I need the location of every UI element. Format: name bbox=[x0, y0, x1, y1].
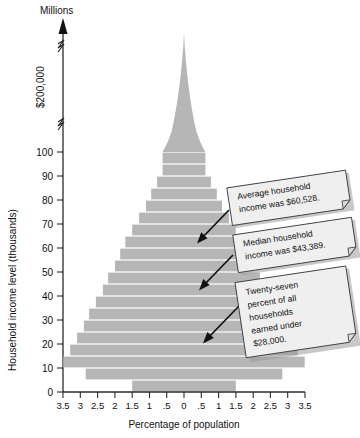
y-tick-label: 20 bbox=[42, 339, 54, 350]
bar-5-10 bbox=[86, 369, 283, 380]
y-axis-title: Household income level (thousands) bbox=[7, 209, 18, 371]
y-tick-label: 80 bbox=[42, 195, 54, 206]
y-tick: 90 bbox=[42, 171, 63, 182]
x-axis-title: Percentage of population bbox=[128, 419, 239, 430]
population-pyramid-chart: Millions $200,000 Household income level… bbox=[0, 0, 360, 438]
chart-figure: Millions $200,000 Household income level… bbox=[0, 0, 360, 438]
callout-under-28000[interactable]: Twenty-seven percent of all households e… bbox=[235, 266, 360, 363]
y-tick-label: 60 bbox=[42, 243, 54, 254]
y-tick: 70 bbox=[42, 219, 63, 230]
y-tick: 10 bbox=[42, 363, 63, 374]
y-tick-label: 30 bbox=[42, 315, 54, 326]
y-tick: 60 bbox=[42, 243, 63, 254]
y-tick: 80 bbox=[42, 195, 63, 206]
x-tick-label: 3.5 bbox=[56, 400, 69, 411]
bar-60-65 bbox=[125, 237, 242, 248]
x-axis: 3.5 3 2.5 2 1.5 1 .5 0 .5 1 1.5 2 2.5 3 … bbox=[56, 392, 311, 430]
x-tick-label: 3 bbox=[78, 400, 83, 411]
x-tick-label: 2.5 bbox=[264, 400, 277, 411]
bar-75-80 bbox=[146, 201, 222, 212]
x-tick-label: .5 bbox=[163, 400, 171, 411]
y-tick: 100 bbox=[36, 147, 63, 158]
x-tick-labels: 3.5 3 2.5 2 1.5 1 .5 0 .5 1 1.5 2 2.5 3 … bbox=[56, 400, 311, 411]
x-tick-group bbox=[63, 392, 305, 398]
x-tick-label: 0 bbox=[181, 400, 186, 411]
y-tick: 40 bbox=[42, 291, 63, 302]
y-tick-label: 10 bbox=[42, 363, 54, 374]
bar-55-60 bbox=[120, 249, 248, 260]
y-tick: 20 bbox=[42, 339, 63, 350]
bar-70-75 bbox=[139, 213, 229, 224]
top-axis-label: Millions bbox=[40, 5, 73, 16]
y-tick-label: 90 bbox=[42, 171, 54, 182]
bar-85-90 bbox=[157, 177, 211, 188]
x-tick-label: 1.5 bbox=[229, 400, 242, 411]
y-tick: 50 bbox=[42, 267, 63, 278]
bar-95-100 bbox=[163, 153, 206, 164]
y-tick-group: 0 10 20 30 40 50 60 70 80 90 100 bbox=[36, 147, 63, 398]
bar-90-95 bbox=[163, 165, 206, 176]
y-tick-label: 0 bbox=[47, 387, 53, 398]
x-tick-label: 2.5 bbox=[91, 400, 104, 411]
x-tick-label: 2 bbox=[112, 400, 117, 411]
y-tick: 30 bbox=[42, 315, 63, 326]
bar-0-5 bbox=[132, 381, 236, 392]
x-tick-label: 3 bbox=[285, 400, 290, 411]
x-tick-label: 1 bbox=[147, 400, 152, 411]
x-tick-label: 2 bbox=[251, 400, 256, 411]
y-axis-arrowhead bbox=[59, 18, 68, 34]
x-tick-label: .5 bbox=[197, 400, 205, 411]
x-tick-label: 1 bbox=[216, 400, 221, 411]
y-axis bbox=[58, 18, 68, 392]
y-tick-label: 100 bbox=[36, 147, 53, 158]
axis-break-label: $200,000 bbox=[35, 66, 46, 108]
bar-80-85 bbox=[151, 189, 217, 200]
y-tick-label: 50 bbox=[42, 267, 54, 278]
bar-50-55 bbox=[115, 261, 253, 272]
pyramid-spire bbox=[163, 34, 206, 152]
bar-65-70 bbox=[132, 225, 236, 236]
y-tick: 0 bbox=[47, 387, 63, 398]
y-tick-label: 70 bbox=[42, 219, 54, 230]
x-tick-label: 3.5 bbox=[298, 400, 311, 411]
y-tick-label: 40 bbox=[42, 291, 54, 302]
x-tick-label: 1.5 bbox=[126, 400, 139, 411]
